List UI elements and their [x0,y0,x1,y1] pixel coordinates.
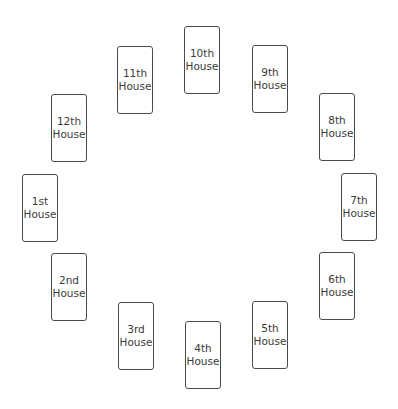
card-number: 5th [261,322,278,335]
card-house-11: 11th House [117,46,153,114]
card-house-4: 4th House [185,321,221,389]
card-label: House [254,79,287,92]
card-number: 11th [123,67,147,80]
card-label: House [53,287,86,300]
card-label: House [187,355,220,368]
card-number: 4th [194,342,211,355]
card-label: House [321,127,354,140]
card-label: House [254,335,287,348]
card-number: 1st [32,195,48,208]
card-label: House [53,128,86,141]
card-number: 3rd [127,323,144,336]
card-house-8: 8th House [319,93,355,161]
card-label: House [119,80,152,93]
card-house-2: 2nd House [51,253,87,321]
card-number: 8th [328,114,345,127]
card-house-6: 6th House [319,252,355,320]
card-label: House [343,207,376,220]
card-number: 7th [350,194,367,207]
card-house-5: 5th House [252,301,288,369]
card-label: House [120,336,153,349]
card-house-3: 3rd House [118,302,154,370]
card-number: 10th [190,47,214,60]
card-house-1: 1st House [22,174,58,242]
card-number: 2nd [59,274,79,287]
card-house-12: 12th House [51,94,87,162]
card-label: House [321,286,354,299]
card-label: House [24,208,57,221]
card-house-9: 9th House [252,45,288,113]
card-number: 12th [57,115,81,128]
card-label: House [186,60,219,73]
card-house-7: 7th House [341,173,377,241]
card-house-10: 10th House [184,26,220,94]
card-number: 9th [261,66,278,79]
card-number: 6th [328,273,345,286]
